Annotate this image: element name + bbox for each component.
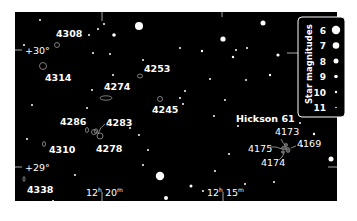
- legend-star-icon: [333, 42, 340, 49]
- star-icon: [92, 52, 94, 54]
- hickson-61-label: Hickson 61: [236, 113, 295, 124]
- ra-15-m-unit: m: [238, 186, 244, 193]
- star-icon: [39, 19, 41, 21]
- star-icon: [269, 74, 271, 76]
- star-icon: [276, 53, 279, 56]
- ra-20-minutes: 20: [105, 187, 117, 198]
- magnitude-legend: Star magnitudes 67891011: [298, 17, 345, 117]
- star-icon: [224, 207, 228, 211]
- galaxy-label: 4308: [56, 28, 83, 39]
- star-icon: [235, 49, 237, 51]
- star-icon: [135, 22, 143, 30]
- ra-20-hours: 12: [86, 187, 98, 198]
- legend-star-icon: [332, 26, 340, 34]
- star-icon: [299, 122, 301, 124]
- legend-magnitude-label: 11: [313, 103, 326, 113]
- hickson-member-label: 4175: [248, 143, 272, 154]
- star-icon: [232, 56, 234, 58]
- ra-15-hours: 12: [207, 187, 219, 198]
- star-icon: [179, 47, 181, 49]
- star-icon: [52, 200, 54, 202]
- legend-star-icon: [335, 107, 337, 109]
- legend-star-icon: [334, 75, 338, 79]
- galaxy-label: 4245: [152, 104, 178, 115]
- legend-magnitude-label: 6: [320, 26, 326, 36]
- star-icon: [237, 125, 239, 127]
- galaxy-label: 4253: [144, 63, 170, 74]
- galaxy-label: 4283: [106, 117, 132, 128]
- star-icon: [220, 36, 225, 41]
- star-chart: 4308431442534274424542864283431042784338…: [0, 0, 357, 221]
- star-icon: [97, 28, 99, 30]
- star-icon: [142, 164, 144, 166]
- ra-15-minutes: 15: [226, 187, 238, 198]
- star-icon: [91, 89, 93, 91]
- galaxy-label: 4274: [104, 81, 131, 92]
- dec-label-30: +30°: [25, 45, 50, 56]
- star-icon: [112, 74, 114, 76]
- hickson-member-label: 4169: [297, 138, 321, 149]
- star-icon: [184, 90, 186, 92]
- galaxy-label: 4278: [96, 143, 123, 154]
- dec-label-29: +29°: [25, 162, 50, 173]
- galaxy-label: 4314: [45, 72, 72, 83]
- galaxy-label: 4286: [60, 116, 87, 127]
- legend-star-icon: [334, 59, 339, 64]
- star-icon: [156, 172, 164, 180]
- galaxy-label: 4310: [49, 144, 76, 155]
- legend-magnitude-label: 9: [320, 72, 326, 82]
- star-icon: [31, 104, 33, 106]
- star-icon: [268, 205, 272, 209]
- star-icon: [202, 190, 204, 192]
- star-icon: [88, 34, 90, 36]
- star-icon: [244, 183, 246, 185]
- legend-star-icon: [335, 91, 337, 93]
- legend-magnitude-label: 7: [320, 41, 326, 51]
- star-icon: [228, 153, 230, 155]
- ra-20-m-unit: m: [117, 186, 123, 193]
- star-icon: [273, 181, 275, 183]
- star-icon: [201, 50, 203, 52]
- galaxy-label: 4338: [27, 184, 54, 195]
- star-icon: [112, 33, 116, 37]
- legend-magnitude-label: 8: [320, 57, 326, 67]
- star-icon: [245, 79, 247, 81]
- star-icon: [214, 170, 216, 172]
- star-icon: [209, 78, 211, 80]
- star-icon: [246, 47, 248, 49]
- star-icon: [147, 149, 149, 151]
- legend-magnitude-label: 10: [313, 88, 326, 98]
- star-icon: [86, 107, 88, 109]
- star-icon: [103, 23, 105, 25]
- star-icon: [224, 99, 226, 101]
- star-icon: [261, 21, 266, 26]
- star-icon: [26, 138, 28, 140]
- star-icon: [74, 174, 76, 176]
- star-icon: [142, 59, 144, 61]
- star-icon: [164, 196, 168, 200]
- star-icon: [179, 97, 181, 99]
- star-icon: [109, 53, 111, 55]
- star-icon: [213, 115, 215, 117]
- star-icon: [190, 185, 193, 188]
- star-icon: [197, 207, 200, 210]
- star-icon: [329, 157, 334, 162]
- star-icon: [138, 134, 140, 136]
- hickson-member-label: 4173: [275, 126, 299, 137]
- hickson-member-label: 4174: [261, 157, 285, 168]
- star-icon: [313, 133, 315, 135]
- star-icon: [182, 103, 184, 105]
